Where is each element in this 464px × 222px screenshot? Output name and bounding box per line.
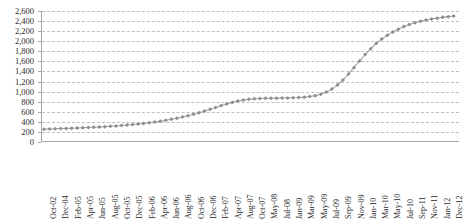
data-point-marker: [125, 123, 129, 127]
data-point-marker: [203, 109, 207, 113]
x-axis-tick-label: Aug-05: [112, 195, 120, 219]
data-point-marker: [197, 111, 201, 115]
data-point-marker: [430, 17, 434, 21]
data-point-marker: [191, 112, 195, 116]
y-axis-tick-label: 200: [21, 127, 34, 136]
data-point-marker: [407, 23, 411, 27]
y-axis-tick-label: 1,400: [15, 67, 34, 76]
y-axis-tick-label: 2,000: [15, 37, 34, 46]
data-point-marker: [258, 97, 262, 101]
y-axis-tick-label: 2,600: [15, 7, 34, 16]
x-axis-tick-label: Mar-10: [382, 195, 390, 219]
data-point-marker: [313, 94, 317, 98]
data-point-marker: [280, 96, 284, 100]
data-point-marker: [48, 127, 52, 131]
y-axis-tick-label: 2,400: [15, 17, 34, 26]
x-axis-tick-label: May-10: [394, 194, 402, 219]
data-point-marker: [169, 117, 173, 121]
data-point-marker: [81, 126, 85, 130]
data-point-marker: [70, 126, 74, 130]
y-axis-tick-label: 1,800: [15, 47, 34, 56]
x-axis-tick-label: Oct-06: [198, 197, 206, 219]
x-axis-tick-label: Jan-12: [444, 198, 452, 219]
x-axis-tick-label: Dec-12: [456, 195, 464, 219]
data-point-marker: [286, 96, 290, 100]
data-point-marker: [275, 96, 279, 100]
data-point-marker: [413, 21, 417, 25]
data-point-marker: [59, 127, 63, 131]
x-axis-tick-label: Oct-02: [50, 197, 58, 219]
data-point-marker: [103, 125, 107, 129]
data-point-marker: [297, 96, 301, 100]
data-point-marker: [446, 15, 450, 19]
x-axis-tick-label: Dec-05: [136, 195, 144, 219]
x-axis-tick-label: Apr-07: [235, 196, 243, 219]
x-axis-tick-label: Jul-09: [333, 199, 341, 219]
data-point-marker: [452, 14, 456, 18]
x-axis-tick-label: Oct-07: [259, 197, 267, 219]
data-point-marker: [147, 121, 151, 125]
data-point-marker: [324, 90, 328, 94]
x-axis: Oct-02Dec-04Feb-05Apr-05Jun-05Aug-05Oct-…: [41, 143, 459, 222]
x-axis-tick-label: Jan-10: [370, 198, 378, 219]
x-axis-tick-label: Feb-07: [222, 196, 230, 219]
data-point-marker: [441, 15, 445, 19]
data-point-marker: [252, 97, 256, 101]
data-point-marker: [230, 100, 234, 104]
data-point-marker: [241, 98, 245, 102]
x-axis-tick-label: May-09: [321, 194, 329, 219]
data-point-marker: [53, 127, 57, 131]
x-axis-tick-label: Aug-07: [247, 195, 255, 219]
y-axis-tick-label: 1,600: [15, 57, 34, 66]
plot-area: [41, 11, 459, 142]
data-point-marker: [402, 25, 406, 29]
data-point-marker: [114, 124, 118, 128]
data-point-marker: [131, 123, 135, 127]
y-axis-tick-label: 400: [21, 117, 34, 126]
y-axis-tick-label: 0: [30, 138, 34, 147]
data-point-marker: [164, 118, 168, 122]
data-point-marker: [142, 121, 146, 125]
x-axis-tick-label: Sep-09: [345, 196, 353, 219]
x-axis-tick-label: Oct-05: [124, 197, 132, 219]
x-axis-tick-label: Jul-10: [407, 199, 415, 219]
data-point-marker: [308, 95, 312, 99]
data-point-marker: [319, 92, 323, 96]
y-axis: 02004006008001,0001,2001,4001,6001,8002,…: [0, 0, 38, 153]
x-axis-tick-label: Apr-05: [87, 196, 95, 219]
data-point-marker: [302, 95, 306, 99]
data-point-marker: [153, 120, 157, 124]
x-axis-tick-label: Jul-08: [284, 199, 292, 219]
x-axis-tick-label: Nov-09: [358, 195, 366, 219]
y-axis-tick-label: 1,000: [15, 87, 34, 96]
x-axis-tick-label: Jan-09: [296, 198, 304, 219]
data-point-marker: [175, 116, 179, 120]
data-point-marker: [208, 107, 212, 111]
x-axis-tick-label: Mar-09: [308, 195, 316, 219]
data-point-marker: [214, 105, 218, 109]
data-point-marker: [158, 119, 162, 123]
data-point-marker: [92, 125, 96, 129]
data-point-marker: [418, 19, 422, 23]
x-axis-tick-label: Aug-06: [185, 195, 193, 219]
y-axis-tick-label: 800: [21, 97, 34, 106]
x-axis-tick-label: May-08: [271, 194, 279, 219]
x-axis-tick-label: Feb-05: [75, 196, 83, 219]
x-axis-tick-label: Feb-06: [149, 196, 157, 219]
data-point-marker: [120, 124, 124, 128]
data-point-marker: [42, 127, 46, 131]
data-point-marker: [269, 96, 273, 100]
data-point-marker: [180, 115, 184, 119]
data-point-marker: [64, 126, 68, 130]
data-point-marker: [263, 96, 267, 100]
data-point-marker: [219, 104, 223, 108]
y-axis-tick-label: 1,200: [15, 77, 34, 86]
data-point-marker: [225, 102, 229, 106]
data-point-marker: [97, 125, 101, 129]
x-axis-tick-label: Nov-11: [431, 195, 439, 219]
x-axis-tick-label: Jun-06: [173, 197, 181, 219]
data-point-marker: [247, 97, 251, 101]
data-point-marker: [108, 124, 112, 128]
data-point-marker: [136, 122, 140, 126]
